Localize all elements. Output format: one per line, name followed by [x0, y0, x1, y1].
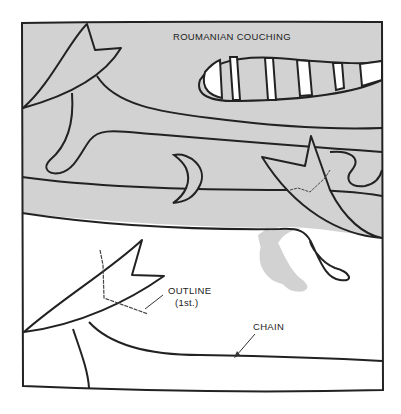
- outline-label: OUTLINE: [168, 285, 211, 296]
- outline-sublabel: (1st.): [175, 297, 198, 308]
- chain-label: CHAIN: [253, 321, 284, 332]
- bottom-left-leaf: [24, 240, 164, 332]
- diagram-title: ROUMANIAN COUCHING: [173, 31, 291, 42]
- lower-right-leg: [310, 240, 349, 280]
- outline-pointer: [145, 295, 163, 309]
- chain-pointer: [236, 334, 255, 356]
- embroidery-diagram: ROUMANIAN COUCHING OUTLINE (1st.) CHAIN: [0, 0, 401, 414]
- bottom-left-stem: [73, 329, 89, 388]
